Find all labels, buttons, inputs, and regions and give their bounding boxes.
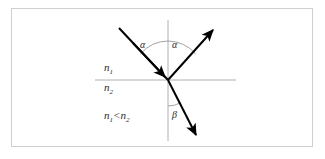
label-angle-alpha-reflected: α (172, 40, 177, 50)
figure-root: n1 n2 n1<n2 α α β (0, 0, 325, 159)
label-angle-beta-refracted: β (172, 110, 177, 120)
label-refractive-index-inequality: n1<n2 (104, 110, 129, 124)
reflected-ray (168, 30, 213, 80)
label-angle-alpha-incident: α (140, 40, 145, 50)
label-medium-n1: n1 (104, 62, 113, 76)
incident-ray-tail (133, 43, 168, 80)
refracted-ray (168, 80, 196, 135)
label-medium-n2: n2 (104, 82, 113, 96)
refraction-diagram (0, 0, 325, 159)
beta-angle-arc (168, 103, 181, 106)
